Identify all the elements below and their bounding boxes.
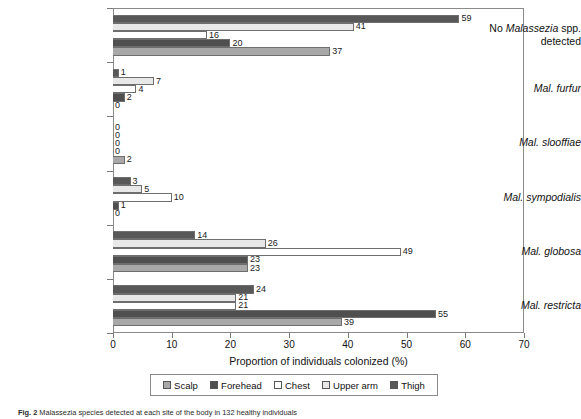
y-axis-tick xyxy=(107,225,113,226)
y-category-label: Mal. sympodialis xyxy=(476,191,581,204)
y-category-label: Mal. globosa xyxy=(476,245,581,258)
legend-swatch-icon xyxy=(210,381,218,389)
y-category-label: Mal. slooffiae xyxy=(476,136,581,149)
bar-group: 00002 xyxy=(113,116,524,170)
bar-row: 14 xyxy=(113,231,524,239)
bar-row: 3 xyxy=(113,177,524,185)
legend-item-scalp[interactable]: Scalp xyxy=(163,380,198,391)
bar-row: 21 xyxy=(113,302,524,310)
y-category-label: No Malassezia spp.detected xyxy=(476,22,581,47)
y-axis-tick xyxy=(107,171,113,172)
y-axis-tick xyxy=(107,116,113,117)
x-axis-tick xyxy=(289,333,290,338)
bar-value-label: 0 xyxy=(113,209,120,218)
figure-caption: Fig. 2 Malassezia species detected at ea… xyxy=(18,408,563,419)
bar-row: 37 xyxy=(113,47,524,55)
x-axis-tick xyxy=(230,333,231,338)
bar-scalp xyxy=(113,264,248,272)
bar-forehead xyxy=(113,256,248,264)
x-axis-tick-label: 30 xyxy=(269,339,309,351)
bar-thigh xyxy=(113,15,459,23)
bar-forehead xyxy=(113,310,436,318)
bar-row: 39 xyxy=(113,318,524,326)
bar-scalp xyxy=(113,156,125,164)
bar-group: 17420 xyxy=(113,62,524,116)
bar-row: 0 xyxy=(113,148,524,156)
x-axis: 010203040506070 xyxy=(113,333,524,357)
bar-group: 1426492323 xyxy=(113,225,524,279)
bar-upper-arm xyxy=(113,185,142,193)
legend-swatch-icon xyxy=(390,381,398,389)
y-category-label: Mal. furfur xyxy=(476,82,581,95)
bar-thigh xyxy=(113,285,254,293)
x-axis-tick-label: 40 xyxy=(328,339,368,351)
bar-row: 59 xyxy=(113,15,524,23)
legend-item-upper-arm[interactable]: Upper arm xyxy=(322,380,378,391)
bar-row: 41 xyxy=(113,23,524,31)
bar-row: 26 xyxy=(113,239,524,247)
x-axis-tick xyxy=(348,333,349,338)
y-axis-tick xyxy=(107,279,113,280)
x-axis-tick xyxy=(524,333,525,338)
bar-value-label: 2 xyxy=(125,155,132,164)
legend-label: Thigh xyxy=(401,380,425,391)
bar-row: 0 xyxy=(113,131,524,139)
y-axis-tick xyxy=(107,62,113,63)
bar-row: 24 xyxy=(113,285,524,293)
legend-label: Chest xyxy=(285,380,310,391)
x-axis-tick xyxy=(465,333,466,338)
bar-row: 49 xyxy=(113,248,524,256)
bar-row: 23 xyxy=(113,256,524,264)
bar-upper-arm xyxy=(113,239,266,247)
legend-swatch-icon xyxy=(163,381,171,389)
bar-row: 1 xyxy=(113,69,524,77)
bar-upper-arm xyxy=(113,294,236,302)
x-axis-tick-label: 70 xyxy=(504,339,544,351)
bar-value-label: 23 xyxy=(248,264,260,273)
bar-row: 10 xyxy=(113,193,524,201)
x-axis-tick xyxy=(113,333,114,338)
bar-row: 20 xyxy=(113,39,524,47)
x-axis-tick-label: 50 xyxy=(387,339,427,351)
bar-thigh xyxy=(113,231,195,239)
caption-figure-number: Fig. 2 xyxy=(18,408,37,417)
bar-value-label: 37 xyxy=(330,47,342,56)
bar-upper-arm xyxy=(113,23,354,31)
legend-swatch-icon xyxy=(322,381,330,389)
bar-row: 0 xyxy=(113,139,524,147)
bar-row: 23 xyxy=(113,264,524,272)
x-axis-tick xyxy=(407,333,408,338)
bar-chest xyxy=(113,302,236,310)
bar-upper-arm xyxy=(113,77,154,85)
legend-swatch-icon xyxy=(274,381,282,389)
bar-row: 0 xyxy=(113,210,524,218)
bar-groups-container: 5941162037174200000235101014264923232421… xyxy=(113,8,524,333)
figure-malassezia-body-sites: 5941162037174200000235101014264923232421… xyxy=(0,0,581,419)
bar-row: 2 xyxy=(113,156,524,164)
bar-chest xyxy=(113,31,207,39)
legend-item-thigh[interactable]: Thigh xyxy=(390,380,425,391)
legend-label: Forehead xyxy=(221,380,262,391)
x-axis-tick xyxy=(172,333,173,338)
bar-row: 0 xyxy=(113,123,524,131)
chart-legend: ScalpForeheadChestUpper armThigh xyxy=(150,374,438,396)
bar-row: 0 xyxy=(113,102,524,110)
bar-row: 7 xyxy=(113,77,524,85)
legend-label: Upper arm xyxy=(333,380,378,391)
bar-row: 55 xyxy=(113,310,524,318)
x-axis-tick-label: 60 xyxy=(445,339,485,351)
legend-item-chest[interactable]: Chest xyxy=(274,380,310,391)
bar-row: 4 xyxy=(113,85,524,93)
caption-text: Malassezia species detected at each site… xyxy=(37,408,297,417)
x-axis-title: Proportion of individuals colonized (%) xyxy=(113,355,524,367)
bar-row: 16 xyxy=(113,31,524,39)
bar-group: 5941162037 xyxy=(113,8,524,62)
legend-item-forehead[interactable]: Forehead xyxy=(210,380,262,391)
bar-group: 351010 xyxy=(113,171,524,225)
bar-scalp xyxy=(113,47,330,55)
y-category-label: Mal. restricta xyxy=(476,299,581,312)
bar-row: 21 xyxy=(113,294,524,302)
bar-value-label: 0 xyxy=(113,101,120,110)
legend-label: Scalp xyxy=(174,380,198,391)
y-axis-tick xyxy=(107,8,113,9)
